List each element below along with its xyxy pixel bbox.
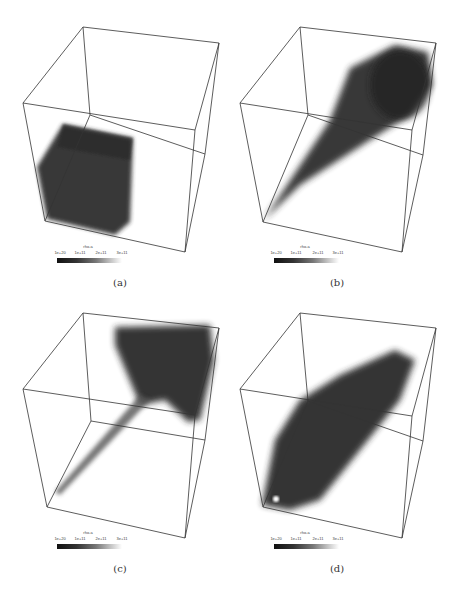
panel-c-caption: (c) <box>113 563 126 574</box>
colorbar-gradient <box>57 258 122 263</box>
colorbar-title: rho-a <box>83 244 92 249</box>
panel-a-caption: (a) <box>113 277 127 288</box>
colorbar-tick: 2e+11 <box>96 250 107 255</box>
colorbar-tick: 1e+11 <box>75 536 86 541</box>
colorbar-title: rho-a <box>300 244 309 249</box>
colorbar-tick: 2e+11 <box>96 536 107 541</box>
colorbar-tick: 3e+11 <box>117 250 128 255</box>
colorbar-tick: 3e+11 <box>333 250 344 255</box>
colorbar-gradient <box>274 544 339 549</box>
colorbar-tick: 1e+20 <box>54 250 65 255</box>
panel-b-caption: (b) <box>330 277 344 288</box>
colorbar-tick: 3e+11 <box>117 536 128 541</box>
colorbar-tick: 1e+20 <box>270 250 281 255</box>
colorbar-tick: 3e+11 <box>333 536 344 541</box>
colorbar-tick: 1e+20 <box>54 536 65 541</box>
colorbar-tick: 2e+11 <box>313 250 324 255</box>
colorbar-tick: 1e+20 <box>270 536 281 541</box>
colorbar-tick: 1e+11 <box>291 536 302 541</box>
colorbar-tick: 2e+11 <box>313 536 324 541</box>
colorbar-tick: 1e+11 <box>75 250 86 255</box>
panel-a-volume <box>37 124 133 235</box>
colorbar-gradient <box>57 544 122 549</box>
figure-canvas <box>0 0 459 593</box>
panel-c-volume <box>55 325 214 495</box>
colorbar-tick: 1e+11 <box>291 250 302 255</box>
panel-d-caption: (d) <box>330 563 344 574</box>
colorbar-title: rho-a <box>300 530 309 535</box>
colorbar-gradient <box>274 258 339 263</box>
colorbar-title: rho-a <box>83 530 92 535</box>
